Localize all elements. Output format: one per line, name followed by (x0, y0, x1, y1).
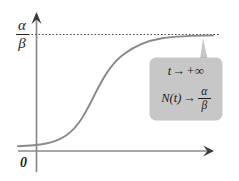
fraction-numerator: α (200, 86, 208, 99)
right-arrow-icon: → (172, 64, 187, 79)
alpha-beta-fraction: α β (198, 86, 211, 112)
limit-callout-box: t → +∞ N(t) → α β (150, 58, 222, 120)
origin-label: 0 (20, 155, 27, 171)
y-axis-asymptote-label: α β (10, 14, 34, 54)
callout-content: t → +∞ N(t) → α β (150, 58, 222, 120)
logistic-growth-figure: α β 0 t → +∞ N(t) → α β (0, 0, 239, 181)
fraction-denominator: β (200, 99, 208, 112)
callout-limit-line: t → +∞ (168, 64, 205, 79)
right-arrow-icon: → (181, 91, 198, 106)
limit-target: +∞ (186, 64, 204, 79)
alpha-beta-fraction: α β (16, 18, 29, 51)
fraction-numerator: α (17, 18, 27, 34)
x-axis (18, 146, 214, 157)
function-name: N(t) (161, 91, 181, 106)
callout-function-line: N(t) → α β (161, 86, 211, 112)
fraction-denominator: β (17, 35, 26, 51)
